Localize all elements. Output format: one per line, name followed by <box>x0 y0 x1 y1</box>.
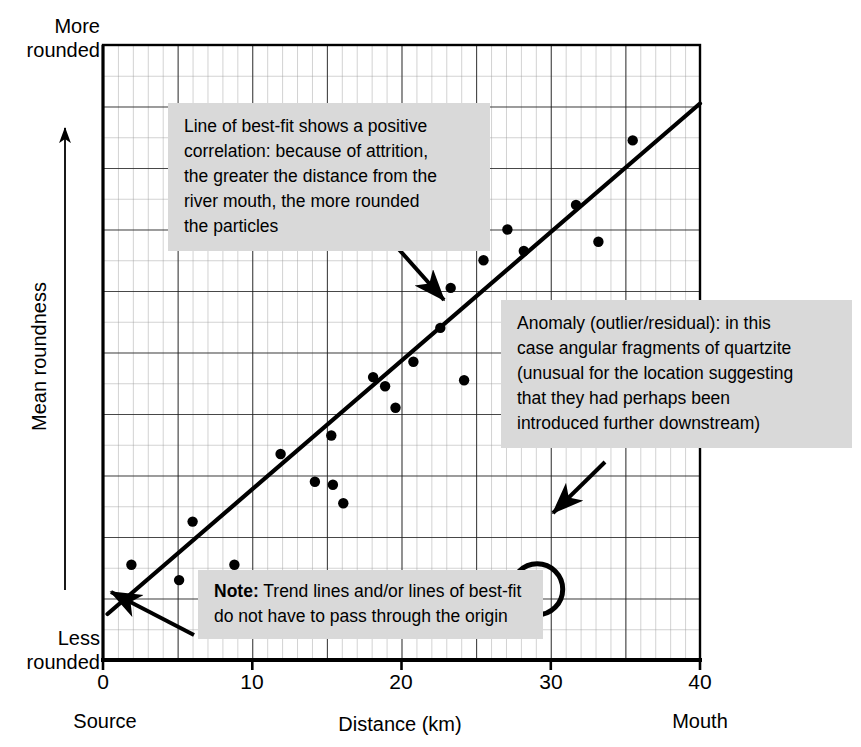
data-point <box>275 449 285 459</box>
data-point <box>435 323 445 333</box>
y-axis-title: Mean roundness <box>28 242 51 472</box>
x-tick-label-40: 40 <box>680 670 720 694</box>
data-point <box>310 477 320 487</box>
data-point <box>519 246 529 256</box>
callout-anomaly: Anomaly (outlier/residual): in this case… <box>501 300 852 448</box>
data-point <box>187 516 197 526</box>
x-axis-title: Distance (km) <box>300 713 500 736</box>
data-point <box>229 560 239 570</box>
x-tick-label-20: 20 <box>381 670 421 694</box>
data-point <box>390 403 400 413</box>
x-axis-start-label: Source <box>60 710 150 733</box>
data-point <box>571 200 581 210</box>
x-tick-label-10: 10 <box>232 670 272 694</box>
data-point <box>368 372 378 382</box>
data-point <box>380 381 390 391</box>
data-point <box>328 480 338 490</box>
x-tick-label-0: 0 <box>83 670 123 694</box>
chart-figure: More rounded Less rounded Mean roundness… <box>0 0 861 747</box>
callout-best-fit: Line of best-fit shows a positive correl… <box>168 103 490 251</box>
y-axis-top-label: More rounded <box>8 14 100 62</box>
data-point <box>478 255 488 265</box>
data-point <box>126 560 136 570</box>
callout-note-label: Note: <box>214 581 259 601</box>
x-tick-label-30: 30 <box>531 670 571 694</box>
data-point <box>628 135 638 145</box>
y-axis-bottom-label: Less rounded <box>2 626 100 674</box>
data-point <box>326 430 336 440</box>
x-axis-end-label: Mouth <box>655 710 745 733</box>
callout-note: Note: Trend lines and/or lines of best-f… <box>198 570 543 639</box>
data-point <box>459 375 469 385</box>
data-point <box>408 357 418 367</box>
data-point <box>593 237 603 247</box>
data-point <box>502 224 512 234</box>
data-point <box>174 575 184 585</box>
callout-note-body: Trend lines and/or lines of best-fit do … <box>214 581 521 626</box>
data-point <box>446 283 456 293</box>
data-point <box>338 498 348 508</box>
